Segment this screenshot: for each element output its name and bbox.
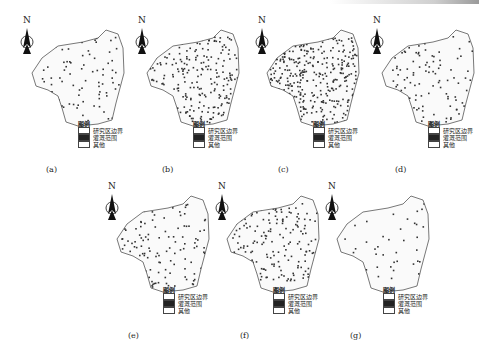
- legend-swatch: [428, 127, 440, 134]
- irrigation-map: [378, 28, 478, 128]
- panel-caption: (f): [240, 331, 249, 340]
- legend-item: 其他: [273, 307, 318, 314]
- legend-title: 图例: [163, 286, 208, 293]
- legend-title: 图例: [428, 120, 473, 127]
- legend-title: 图例: [193, 120, 238, 127]
- legend-title: 图例: [78, 120, 123, 127]
- map-legend: 图例 研究区边界灌溉范围其他: [163, 286, 208, 314]
- legend-swatch: [193, 127, 205, 134]
- legend-swatch: [273, 307, 285, 314]
- legend-swatch: [193, 134, 205, 141]
- irrigation-map: [113, 194, 213, 294]
- panel-caption: (e): [128, 331, 139, 340]
- map-panel: N 图例 研究区边界灌溉范围其他: [125, 4, 245, 164]
- legend-swatch: [428, 134, 440, 141]
- legend-title: 图例: [313, 120, 358, 127]
- legend-swatch: [193, 141, 205, 148]
- panel-caption: (a): [46, 165, 57, 174]
- legend-item: 灌溉范围: [383, 300, 428, 307]
- legend-item: 研究区边界: [383, 293, 428, 300]
- legend-item: 灌溉范围: [78, 134, 123, 141]
- map-legend: 图例 研究区边界灌溉范围其他: [273, 286, 318, 314]
- legend-swatch: [78, 134, 90, 141]
- map-panel: N 图例 研究区边界灌溉范围其他: [95, 170, 215, 330]
- legend-item: 其他: [428, 141, 473, 148]
- legend-swatch: [78, 141, 90, 148]
- legend-swatch: [383, 293, 395, 300]
- map-panel: N 图例 研究区边界灌溉范围其他: [10, 4, 130, 164]
- legend-item: 其他: [163, 307, 208, 314]
- legend-item: 灌溉范围: [428, 134, 473, 141]
- legend-item: 灌溉范围: [273, 300, 318, 307]
- map-panel: N 图例 研究区边界灌溉范围其他: [205, 170, 325, 330]
- legend-swatch: [383, 307, 395, 314]
- map-legend: 图例 研究区边界灌溉范围其他: [383, 286, 428, 314]
- legend-item: 研究区边界: [163, 293, 208, 300]
- legend-title: 图例: [273, 286, 318, 293]
- legend-item: 研究区边界: [193, 127, 238, 134]
- legend-swatch: [273, 293, 285, 300]
- legend-swatch: [428, 141, 440, 148]
- legend-swatch: [273, 300, 285, 307]
- legend-swatch: [313, 134, 325, 141]
- legend-swatch: [313, 141, 325, 148]
- map-legend: 图例 研究区边界灌溉范围其他: [313, 120, 358, 148]
- irrigation-map: [263, 28, 363, 128]
- legend-item: 研究区边界: [428, 127, 473, 134]
- legend-swatch: [313, 127, 325, 134]
- legend-swatch: [163, 293, 175, 300]
- legend-swatch: [78, 127, 90, 134]
- legend-title: 图例: [383, 286, 428, 293]
- map-panel: N 图例 研究区边界灌溉范围其他: [245, 4, 365, 164]
- legend-item: 灌溉范围: [163, 300, 208, 307]
- legend-item: 其他: [78, 141, 123, 148]
- legend-swatch: [163, 307, 175, 314]
- irrigation-map: [28, 28, 128, 128]
- map-panel: N 图例 研究区边界灌溉范围其他: [360, 4, 479, 164]
- legend-item: 其他: [193, 141, 238, 148]
- legend-swatch: [383, 300, 395, 307]
- map-legend: 图例 研究区边界灌溉范围其他: [193, 120, 238, 148]
- legend-item: 研究区边界: [313, 127, 358, 134]
- legend-item: 研究区边界: [273, 293, 318, 300]
- panel-caption: (g): [350, 331, 361, 340]
- legend-item: 其他: [383, 307, 428, 314]
- irrigation-map: [223, 194, 323, 294]
- map-legend: 图例 研究区边界灌溉范围其他: [428, 120, 473, 148]
- map-panel: N 图例 研究区边界灌溉范围其他: [315, 170, 435, 330]
- irrigation-map: [143, 28, 243, 128]
- legend-item: 灌溉范围: [313, 134, 358, 141]
- map-legend: 图例 研究区边界灌溉范围其他: [78, 120, 123, 148]
- irrigation-map: [333, 194, 433, 294]
- legend-item: 灌溉范围: [193, 134, 238, 141]
- legend-swatch: [163, 300, 175, 307]
- legend-item: 其他: [313, 141, 358, 148]
- legend-item: 研究区边界: [78, 127, 123, 134]
